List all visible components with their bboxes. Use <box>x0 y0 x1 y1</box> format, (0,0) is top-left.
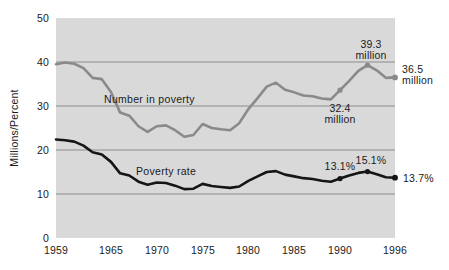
series-label-number-in-poverty: Number in poverty <box>104 93 195 105</box>
annotation-mid-unit: million <box>324 113 355 125</box>
xtick-label-1990: 1990 <box>328 244 352 256</box>
series-label-poverty-rate: Poverty rate <box>136 165 196 177</box>
x-axis-ticks: 1959 1965 1970 1975 1980 1985 1990 1996 <box>44 244 407 256</box>
y-axis-ticks: 50 40 30 20 10 0 <box>37 12 49 244</box>
poverty-chart: 50 40 30 20 10 0 Millions/Percent 1959 1… <box>0 0 449 270</box>
xtick-label-1965: 1965 <box>99 244 123 256</box>
datapoint-rate-1993 <box>365 169 370 174</box>
xtick-label-1970: 1970 <box>145 244 169 256</box>
ytick-label-40: 40 <box>37 56 49 68</box>
ytick-label-0: 0 <box>43 232 49 244</box>
datapoint-rate-1996 <box>392 175 398 181</box>
xtick-label-1980: 1980 <box>236 244 260 256</box>
annotation-end-36-5: 36.5 million <box>402 63 433 86</box>
datapoint-rate-1990 <box>337 176 342 181</box>
annotation-rate-1990: 13.1% <box>325 160 356 172</box>
ytick-label-30: 30 <box>37 100 49 112</box>
datapoint-number-1993 <box>365 62 370 67</box>
xtick-label-1975: 1975 <box>191 244 215 256</box>
ytick-label-20: 20 <box>37 144 49 156</box>
annotation-peak-unit: million <box>355 49 386 61</box>
plot-background <box>56 18 395 238</box>
ytick-label-10: 10 <box>37 188 49 200</box>
xtick-label-1996: 1996 <box>383 244 407 256</box>
annotation-end-unit: million <box>402 74 433 86</box>
y-axis-title: Millions/Percent <box>8 89 20 166</box>
annotation-rate-1996: 13.7% <box>403 172 434 184</box>
datapoint-number-1996 <box>392 75 398 81</box>
datapoint-number-1990 <box>337 88 342 93</box>
xtick-label-1959: 1959 <box>44 244 68 256</box>
ytick-label-50: 50 <box>37 12 49 24</box>
annotation-rate-1993: 15.1% <box>356 154 387 166</box>
xtick-label-1985: 1985 <box>282 244 306 256</box>
chart-canvas: 50 40 30 20 10 0 Millions/Percent 1959 1… <box>0 0 449 270</box>
